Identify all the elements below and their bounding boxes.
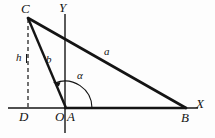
angle-label-alpha: α <box>77 70 83 81</box>
geometry-figure: C Y h b a α D O A B X <box>0 0 215 138</box>
point-label-o: O <box>55 110 64 123</box>
side-label-b: b <box>46 54 52 65</box>
side-label-a: a <box>104 46 110 57</box>
axis-label-y: Y <box>59 1 66 14</box>
axis-label-x: X <box>196 97 204 110</box>
vertex-label-c: C <box>21 2 30 15</box>
vertex-label-b: B <box>181 111 189 124</box>
point-label-d: D <box>19 110 28 123</box>
point-label-a: A <box>67 110 75 123</box>
height-label-h: h <box>16 52 22 63</box>
